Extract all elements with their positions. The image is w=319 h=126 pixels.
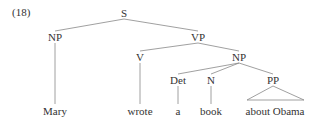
edge-np-pp <box>239 63 273 74</box>
node-v: V <box>136 51 144 63</box>
leaf-wrote: wrote <box>127 105 152 117</box>
node-np-object: NP <box>232 51 246 63</box>
leaf-book: book <box>200 105 222 117</box>
node-s: S <box>121 7 127 19</box>
leaf-mary: Mary <box>43 105 67 117</box>
edge-np-det <box>178 63 239 74</box>
edge-vp-np <box>198 43 239 51</box>
node-det: Det <box>170 74 186 86</box>
leaf-about-obama: about Obama <box>246 105 305 117</box>
node-n: N <box>207 74 215 86</box>
edge-s-vp <box>124 19 198 31</box>
node-pp: PP <box>267 74 279 86</box>
node-np-subject: NP <box>48 31 62 43</box>
node-vp: VP <box>191 31 205 43</box>
edge-np-n <box>211 63 239 74</box>
edge-s-np <box>55 19 124 31</box>
edge-vp-v <box>140 43 198 51</box>
triangle-pp <box>247 86 304 100</box>
leaf-a: a <box>176 105 181 117</box>
